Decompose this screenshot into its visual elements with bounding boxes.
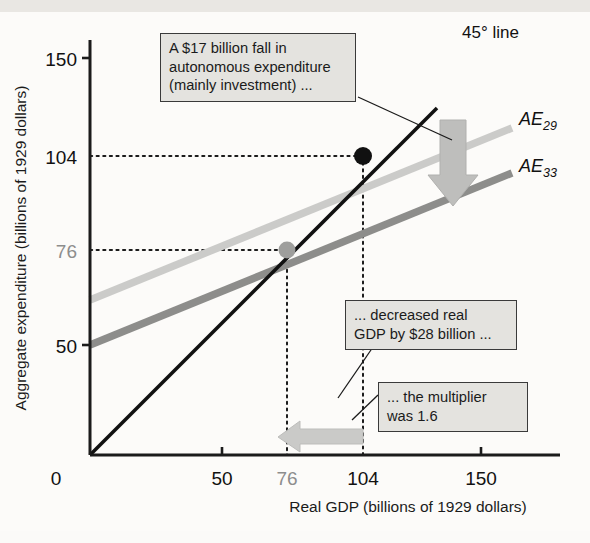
- label-ae33: AE33: [518, 156, 557, 180]
- leader-line-callout1: [358, 97, 452, 140]
- callout1-line3: (mainly investment) ...: [169, 76, 347, 95]
- callout3-line1: ... the multiplier: [387, 388, 519, 407]
- x-tick-label-104: 104: [347, 468, 379, 489]
- x-axis-title: Real GDP (billions of 1929 dollars): [289, 498, 527, 515]
- label-ae29: AE29: [518, 109, 557, 133]
- callout3-line2: was 1.6: [387, 407, 519, 426]
- callout1-line1: A $17 billion fall in: [169, 39, 347, 58]
- y-tick-label-50: 50: [56, 336, 77, 357]
- callout1-line2: autonomous expenditure: [169, 58, 347, 77]
- y-tick-label-104: 104: [45, 147, 77, 168]
- point-equilibrium-1929: [354, 147, 372, 165]
- y-axis-title: Aggregate expenditure (billions of 1929 …: [12, 86, 29, 411]
- label-ae33-base: AE: [518, 156, 544, 176]
- y-tick-label-150: 150: [45, 49, 77, 70]
- real-gdp-callout: ... decreased real GDP by $28 billion ..…: [345, 300, 517, 350]
- leader-line-callout3: [352, 395, 378, 420]
- x-tick-label-150: 150: [465, 468, 497, 489]
- label-ae33-sub: 33: [543, 166, 557, 180]
- callout2-line1: ... decreased real: [354, 306, 508, 325]
- label-45-degree-line: 45° line: [462, 23, 519, 42]
- callout2-line2: GDP by $28 billion ...: [354, 325, 508, 344]
- point-equilibrium-1933: [279, 242, 296, 259]
- x-tick-label-76: 76: [276, 468, 297, 489]
- x-tick-label-50: 50: [211, 468, 232, 489]
- autonomous-expenditure-callout: A $17 billion fall in autonomous expendi…: [160, 33, 356, 102]
- label-ae29-base: AE: [518, 109, 544, 129]
- y-tick-label-76: 76: [56, 241, 77, 262]
- x-tick-label-0: 0: [51, 468, 62, 489]
- label-ae29-sub: 29: [542, 119, 557, 133]
- gdp-decrease-arrow: [278, 421, 363, 452]
- multiplier-callout: ... the multiplier was 1.6: [378, 382, 528, 432]
- guide-lines: [90, 156, 363, 455]
- figure-canvas: 150 104 76 50 0 50 76 104 150 Real GDP (…: [0, 0, 590, 543]
- leader-line-callout2: [338, 347, 373, 398]
